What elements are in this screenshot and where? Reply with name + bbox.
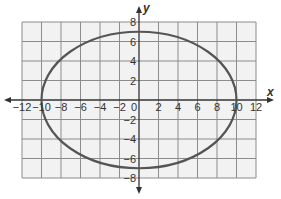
x-tick-label: 4 bbox=[175, 101, 181, 113]
x-tick-label: −10 bbox=[32, 101, 51, 113]
y-tick-label: −6 bbox=[123, 153, 136, 165]
ellipse-graph: −12−10−8−6−4−2024681012 8642−2−4−6−8 x y bbox=[0, 0, 281, 199]
x-tick-label: 12 bbox=[250, 101, 262, 113]
x-tick-label: −12 bbox=[13, 101, 32, 113]
arrow-down-icon bbox=[136, 187, 142, 194]
x-tick-label: −2 bbox=[113, 101, 126, 113]
x-tick-label: 10 bbox=[230, 101, 242, 113]
arrow-up-icon bbox=[136, 6, 142, 13]
y-tick-label: 8 bbox=[130, 16, 136, 28]
y-tick-label: 6 bbox=[130, 36, 136, 48]
x-axis-label: x bbox=[266, 85, 275, 99]
x-tick-label: −4 bbox=[94, 101, 107, 113]
x-tick-label: −8 bbox=[55, 101, 68, 113]
y-tick-label: 4 bbox=[130, 55, 136, 67]
y-tick-label: −2 bbox=[123, 114, 136, 126]
x-tick-label: 8 bbox=[214, 101, 220, 113]
x-tick-label: 6 bbox=[194, 101, 200, 113]
y-axis-label: y bbox=[142, 1, 151, 15]
x-tick-label: −6 bbox=[74, 101, 87, 113]
arrow-left-icon bbox=[4, 97, 11, 103]
x-tick-label: 0 bbox=[131, 101, 137, 113]
x-tick-label: 2 bbox=[155, 101, 161, 113]
y-tick-label: −4 bbox=[123, 133, 136, 145]
y-tick-label: 2 bbox=[130, 75, 136, 87]
y-tick-label: −8 bbox=[123, 172, 136, 184]
